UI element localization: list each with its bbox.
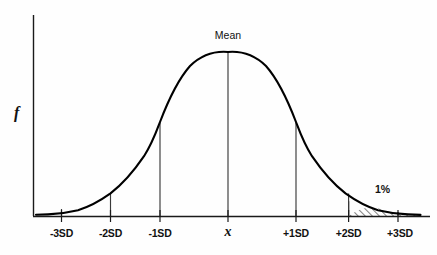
- tail-percent-label: 1%: [375, 183, 390, 195]
- normal-distribution-figure: f Mean 1% -3SD -2SD -1SD x +1SD +2SD +3S…: [0, 0, 437, 255]
- x-tick-label-mean: x: [225, 224, 232, 240]
- x-tick-label-minus-3sd: -3SD: [50, 227, 73, 239]
- x-tick-label-minus-1sd: -1SD: [148, 227, 171, 239]
- x-tick-label-plus-1sd: +1SD: [283, 227, 309, 239]
- mean-label: Mean: [215, 29, 241, 41]
- x-tick-label-plus-3sd: +3SD: [387, 227, 413, 239]
- x-tick-label-plus-2sd: +2SD: [336, 227, 362, 239]
- y-axis-label: f: [14, 104, 19, 122]
- x-tick-label-minus-2sd: -2SD: [99, 227, 122, 239]
